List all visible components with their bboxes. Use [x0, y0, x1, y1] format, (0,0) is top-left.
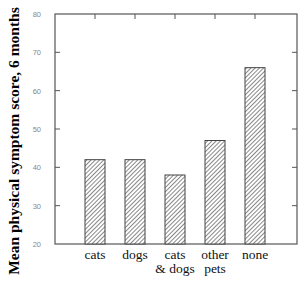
bar-other-pets [205, 141, 225, 245]
x-tick-label: dogs [122, 247, 148, 262]
y-tick-label: 60 [33, 87, 41, 96]
bar-none [245, 68, 265, 244]
y-tick-label: 70 [33, 48, 41, 57]
x-tick-label: pets [204, 261, 226, 276]
y-tick-label: 30 [33, 202, 41, 211]
bar-cats-dogs [165, 175, 185, 244]
x-tick-label: other [201, 247, 229, 262]
x-tick-label: cats [165, 247, 186, 262]
bar-chart: 20304050607080catsdogscats& dogsotherpet… [0, 0, 302, 281]
bar-dogs [125, 160, 145, 244]
x-tick-label: cats [85, 247, 106, 262]
y-tick-label: 80 [33, 10, 41, 19]
y-tick-label: 20 [33, 240, 41, 249]
x-tick-label: none [242, 247, 268, 262]
y-tick-label: 50 [33, 125, 41, 134]
y-tick-label: 40 [33, 163, 41, 172]
x-tick-label: & dogs [155, 261, 194, 276]
plot-area: 20304050607080catsdogscats& dogsotherpet… [33, 10, 297, 276]
bar-cats [85, 160, 105, 244]
